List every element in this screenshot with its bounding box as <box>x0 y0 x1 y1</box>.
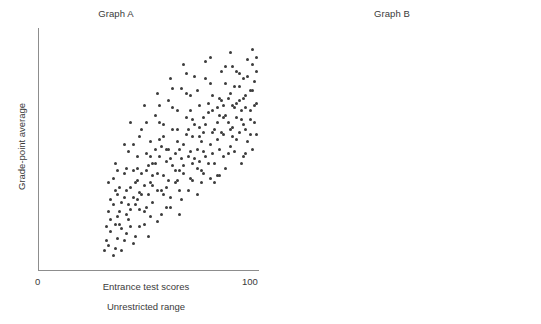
graph-a-x-axis-line <box>38 270 259 271</box>
data-point <box>242 155 245 158</box>
data-point <box>204 123 207 126</box>
data-point <box>235 102 238 105</box>
data-point <box>187 155 190 158</box>
data-point <box>118 210 121 213</box>
data-point <box>185 92 188 95</box>
data-point <box>143 184 146 187</box>
panel-graph-a: Graph A Grade-point average 0 100 Entran… <box>0 0 270 324</box>
data-point <box>255 56 258 59</box>
data-point <box>216 106 219 109</box>
data-point <box>120 249 123 252</box>
data-point <box>112 203 115 206</box>
data-point <box>242 97 245 100</box>
data-point <box>218 174 221 177</box>
data-point <box>242 77 245 80</box>
graph-a-title: Graph A <box>0 8 270 19</box>
data-point <box>114 223 117 226</box>
data-point <box>105 225 108 228</box>
data-point <box>154 162 157 165</box>
data-point <box>143 223 146 226</box>
data-point <box>107 181 110 184</box>
data-point <box>125 232 128 235</box>
data-point <box>246 58 249 61</box>
data-point <box>178 148 181 151</box>
data-point <box>182 172 185 175</box>
data-point <box>145 152 148 155</box>
data-point <box>187 189 190 192</box>
data-point <box>156 189 159 192</box>
data-point <box>204 60 207 63</box>
data-point <box>125 167 128 170</box>
data-point <box>240 109 243 112</box>
data-point <box>233 150 236 153</box>
data-point <box>127 150 130 153</box>
data-point <box>165 160 168 163</box>
data-point <box>136 155 139 158</box>
data-point <box>193 123 196 126</box>
data-point <box>198 126 201 129</box>
data-point <box>165 186 168 189</box>
data-point <box>229 92 232 95</box>
data-point <box>132 242 135 245</box>
data-point <box>169 196 172 199</box>
graph-a-y-axis-title: Grade-point average <box>16 103 27 190</box>
data-point <box>238 85 241 88</box>
data-point <box>116 169 119 172</box>
data-point <box>191 162 194 165</box>
data-point <box>147 193 150 196</box>
data-point <box>229 51 232 54</box>
data-point <box>165 148 168 151</box>
data-point <box>244 128 247 131</box>
data-point <box>204 77 207 80</box>
data-point <box>249 118 252 121</box>
data-point <box>202 150 205 153</box>
data-point <box>216 121 219 124</box>
data-point <box>238 99 241 102</box>
data-point <box>253 104 256 107</box>
data-point <box>178 189 181 192</box>
data-point <box>231 104 234 107</box>
data-point <box>224 65 227 68</box>
data-point <box>176 179 179 182</box>
data-point <box>140 193 143 196</box>
data-point <box>249 133 252 136</box>
data-point <box>229 145 232 148</box>
data-point <box>209 177 212 180</box>
data-point <box>227 121 230 124</box>
data-point <box>118 223 121 226</box>
data-point <box>107 210 110 213</box>
data-point <box>202 131 205 134</box>
data-point <box>222 104 225 107</box>
data-point <box>207 111 210 114</box>
data-point <box>134 203 137 206</box>
data-point <box>160 189 163 192</box>
data-point <box>162 123 165 126</box>
data-point <box>162 174 165 177</box>
data-point <box>193 75 196 78</box>
data-point <box>136 167 139 170</box>
data-point <box>138 208 141 211</box>
data-point <box>132 143 135 146</box>
scatterplot-figure: Graph A Grade-point average 0 100 Entran… <box>0 0 541 324</box>
data-point <box>127 203 130 206</box>
data-point <box>211 109 214 112</box>
data-point <box>180 87 183 90</box>
data-point <box>251 63 254 66</box>
data-point <box>255 70 258 73</box>
data-point <box>134 181 137 184</box>
data-point <box>176 128 179 131</box>
data-point <box>120 201 123 204</box>
data-point <box>182 63 185 66</box>
data-point <box>218 97 221 100</box>
data-point <box>178 213 181 216</box>
data-point <box>103 249 106 252</box>
data-point <box>202 116 205 119</box>
data-point <box>116 215 119 218</box>
data-point <box>116 193 119 196</box>
data-point <box>162 135 165 138</box>
data-point <box>112 254 115 257</box>
data-point <box>109 230 112 233</box>
data-point <box>174 169 177 172</box>
graph-a-x-axis-title: Entrance test scores <box>76 281 216 292</box>
graph-b-title: Graph B <box>270 8 540 19</box>
